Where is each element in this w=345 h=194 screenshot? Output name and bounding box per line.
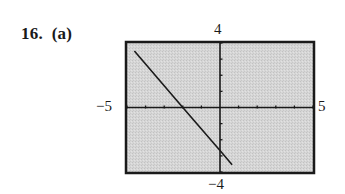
- graph-plot: [0, 0, 345, 194]
